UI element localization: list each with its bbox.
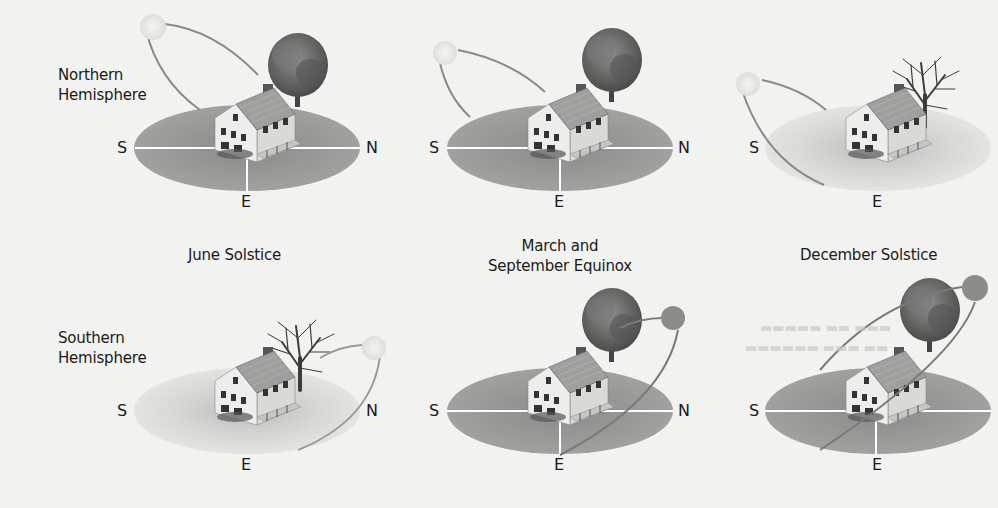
south-label: S	[429, 139, 439, 157]
december-solstice-label: December Solstice	[800, 246, 937, 264]
sun-path-arc	[458, 50, 545, 92]
south-label: S	[117, 402, 127, 420]
south-label: S	[429, 402, 439, 420]
northern-label-line2: Hemisphere	[58, 85, 146, 105]
south-label: S	[117, 139, 127, 157]
southern-label-line1: Southern	[58, 328, 146, 348]
sun-icon	[962, 275, 988, 301]
east-label: E	[872, 456, 882, 474]
leafy-tree-icon	[582, 288, 642, 362]
panel-southern-equinox	[447, 288, 685, 455]
north-label: N	[366, 402, 378, 420]
panel-northern-december	[736, 57, 991, 191]
equinox-label-line1: March and	[480, 236, 640, 256]
east-label: E	[554, 193, 564, 211]
sun-path-arc	[146, 30, 200, 110]
sun-path-arc	[439, 58, 470, 117]
equinox-label: March and September Equinox	[480, 236, 640, 276]
north-label: N	[366, 139, 378, 157]
sun-icon	[362, 336, 386, 360]
june-solstice-label: June Solstice	[188, 246, 281, 264]
east-label: E	[241, 456, 251, 474]
equinox-label-line2: September Equinox	[480, 256, 640, 276]
sun-icon	[433, 41, 457, 65]
sun-path-arc	[762, 80, 826, 110]
panel-northern-equinox	[433, 28, 673, 191]
south-label: S	[749, 139, 759, 157]
sun-path-arc	[165, 24, 258, 75]
panel-southern-june	[134, 320, 386, 454]
southern-label-line2: Hemisphere	[58, 348, 146, 368]
bleed-through-text: ▬▬▬▬▬ ▬▬ ▬▬▬	[760, 318, 891, 338]
east-label: E	[554, 456, 564, 474]
sun-icon	[736, 72, 760, 96]
northern-label-line1: Northern	[58, 65, 146, 85]
east-label: E	[872, 193, 882, 211]
north-label: N	[678, 139, 690, 157]
sun-icon	[140, 14, 166, 40]
north-label: N	[678, 402, 690, 420]
east-label: E	[241, 193, 251, 211]
leafy-tree-icon	[582, 28, 642, 102]
sun-path-diagram: ▬▬▬▬▬ ▬▬ ▬▬▬ ▬▬▬▬▬▬ ▬▬▬ ▬▬ Northern Hemi…	[0, 0, 998, 508]
sun-icon	[661, 306, 685, 330]
panel-northern-june	[134, 14, 360, 191]
panel-southern-december	[765, 275, 991, 454]
bleed-through-text: ▬▬▬▬▬▬ ▬▬▬ ▬▬	[745, 338, 888, 358]
south-label: S	[749, 402, 759, 420]
southern-hemisphere-label: Southern Hemisphere	[58, 328, 146, 368]
northern-hemisphere-label: Northern Hemisphere	[58, 65, 146, 105]
